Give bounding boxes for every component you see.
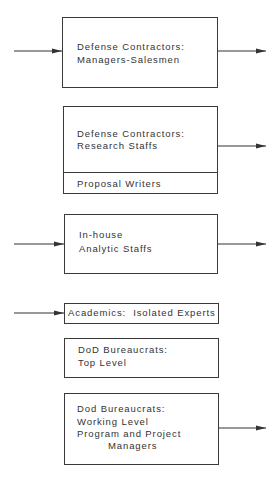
box-divider (64, 172, 217, 173)
box-label-line: Program and Project (77, 428, 181, 441)
box-label-line: Managers-Salesmen (77, 54, 180, 67)
box-label-line: Defense Contractors: (77, 128, 185, 141)
box-label-line: Top Level (78, 357, 127, 370)
box-research-staffs: Defense Contractors: Research Staffs Pro… (63, 106, 218, 194)
box-label-line: In-house (79, 229, 123, 242)
box-inhouse-analytic: In-house Analytic Staffs (64, 214, 218, 274)
box-label-line: DoD Bureaucrats: (78, 344, 168, 357)
sub-section-label: Proposal Writers (77, 178, 161, 191)
box-label-line: Academics: Isolated Experts (68, 307, 216, 320)
box-label-line: Analytic Staffs (79, 243, 153, 256)
box-academics: Academics: Isolated Experts (64, 303, 219, 324)
box-dod-working-level: Dod Bureaucrats: Working Level Program a… (64, 393, 219, 465)
box-label-line: Defense Contractors: (77, 41, 185, 54)
box-label-line: Dod Bureaucrats: (77, 403, 165, 416)
box-dod-top-level: DoD Bureaucrats: Top Level (64, 338, 219, 378)
box-label-line: Research Staffs (77, 140, 158, 153)
box-label-line: Managers (108, 440, 157, 453)
box-managers-salesmen: Defense Contractors: Managers-Salesmen (62, 17, 218, 88)
box-label-line: Working Level (77, 416, 149, 429)
